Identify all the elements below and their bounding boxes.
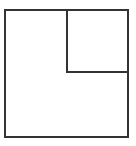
- diagram-canvas: [0, 0, 136, 146]
- inner-square-top-right: [67, 10, 128, 72]
- diagram-svg: [0, 0, 136, 146]
